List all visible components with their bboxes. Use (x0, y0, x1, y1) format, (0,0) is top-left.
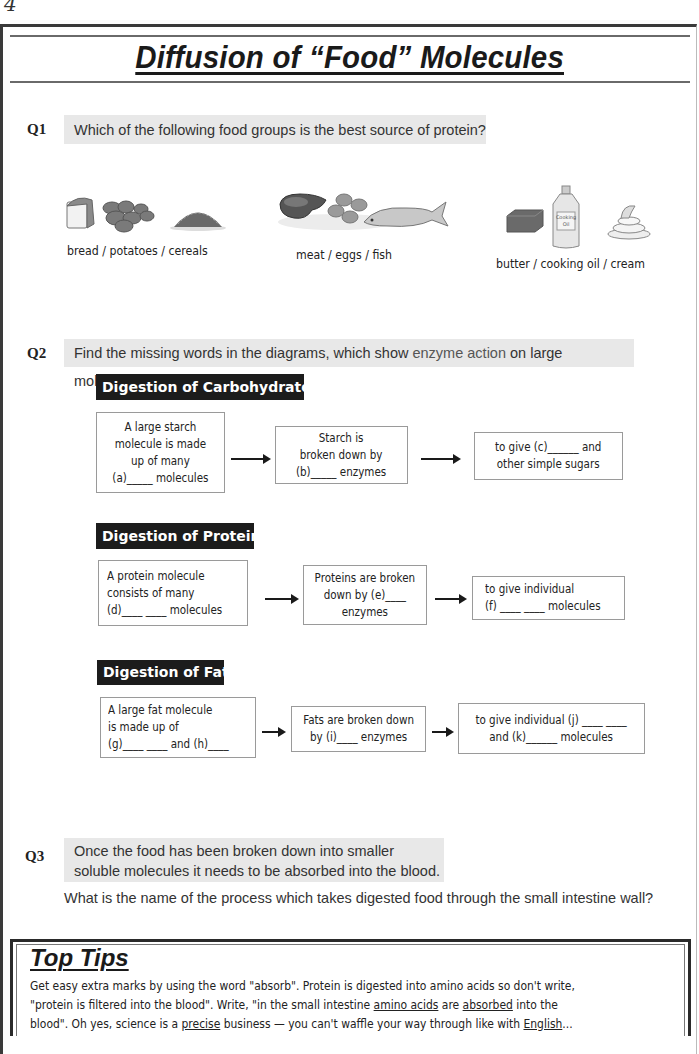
carbs-box-a[interactable]: A large starch molecule is made up of ma… (96, 412, 225, 493)
food-group-fats-label: butter / cooking oil / cream (496, 256, 645, 271)
arrow-icon (262, 731, 284, 733)
q3-question: What is the name of the process which ta… (64, 890, 653, 906)
butter-oil-cream-icon: CookingOil (505, 184, 653, 250)
q3-statement: Once the food has been broken down into … (64, 838, 444, 882)
title-bottom-rule (10, 81, 690, 83)
page-title: Diffusion of “Food” Molecules (0, 40, 699, 76)
page-number: 4 (4, 0, 17, 16)
food-group-carbs[interactable] (66, 194, 226, 234)
cereals-icon (170, 213, 226, 232)
arrow-icon (231, 458, 269, 460)
svg-text:Oil: Oil (563, 221, 570, 227)
top-tips-body: Get easy extra marks by using the word "… (30, 976, 685, 1033)
q2-label: Q2 (27, 345, 46, 362)
fats-box-j-k[interactable]: to give individual (j) ____ ____ and (k)… (458, 703, 645, 754)
q2-question: Find the missing words in the diagrams, … (64, 339, 634, 367)
top-tips-title: Top Tips (30, 944, 129, 972)
carbs-box-b[interactable]: Starch is broken down by (b)_____ enzyme… (275, 426, 408, 484)
arrow-icon (432, 731, 452, 733)
heading-proteins: Digestion of Proteins (96, 523, 254, 549)
fats-box-g-h[interactable]: A large fat molecule is made up of (g)__… (100, 697, 256, 758)
proteins-box-d[interactable]: A protein molecule consists of many (d)_… (98, 560, 248, 626)
meat-eggs-fish-icon (276, 190, 451, 232)
bread-icon (67, 198, 94, 228)
heading-carbohydrates: Digestion of Carbohydrates (96, 374, 304, 400)
food-group-carbs-label: bread / potatoes / cereals (67, 243, 208, 258)
proteins-box-f[interactable]: to give individual (f) ____ ____ molecul… (472, 576, 625, 620)
q1-question: Which of the following food groups is th… (64, 115, 486, 144)
arrow-icon (421, 458, 459, 460)
carbs-box-c[interactable]: to give (c)______ and other simple sugar… (474, 432, 623, 480)
food-group-fats[interactable]: CookingOil (505, 184, 653, 250)
cream-icon (608, 206, 650, 239)
proteins-box-e[interactable]: Proteins are broken down by (e)____ enzy… (303, 565, 427, 625)
potatoes-icon (103, 201, 154, 232)
svg-text:Cooking: Cooking (556, 214, 576, 221)
bread-potatoes-cereals-icon (66, 194, 226, 234)
arrow-icon (265, 598, 297, 600)
q3-label: Q3 (25, 848, 44, 865)
fats-box-i[interactable]: Fats are broken down by (i)____ enzymes (291, 706, 426, 752)
food-group-protein[interactable] (276, 190, 451, 232)
food-group-protein-label: meat / eggs / fish (296, 247, 392, 262)
q1-label: Q1 (27, 121, 46, 138)
butter-icon (507, 210, 543, 232)
heading-fats: Digestion of Fats (97, 660, 224, 685)
arrow-icon (435, 598, 465, 600)
title-top-rule (10, 35, 690, 37)
fish-icon (364, 202, 448, 226)
cooking-oil-icon: CookingOil (553, 186, 579, 248)
